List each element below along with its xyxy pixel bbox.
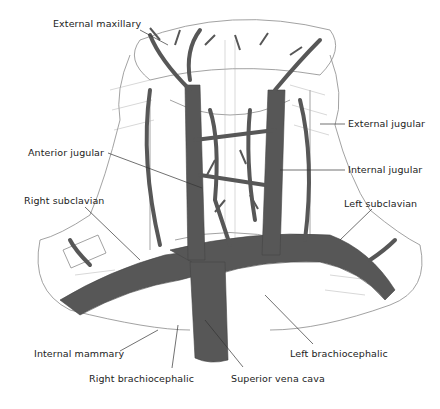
label-external-maxillary: External maxillary (53, 18, 141, 29)
veins (60, 85, 395, 362)
label-internal-mammary: Internal mammary (34, 348, 124, 359)
label-left-brachiocephalic: Left brachiocephalic (290, 348, 388, 359)
vein-branches (70, 30, 395, 265)
label-right-brachiocephalic: Right brachiocephalic (89, 373, 194, 384)
label-anterior-jugular: Anterior jugular (28, 147, 104, 158)
label-left-subclavian: Left subclavian (344, 198, 417, 209)
label-external-jugular: External jugular (348, 118, 425, 129)
leader-lines (85, 30, 372, 368)
label-internal-jugular: Internal jugular (348, 164, 422, 175)
label-right-subclavian: Right subclavian (24, 195, 104, 206)
label-superior-vena-cava: Superior vena cava (231, 373, 325, 384)
